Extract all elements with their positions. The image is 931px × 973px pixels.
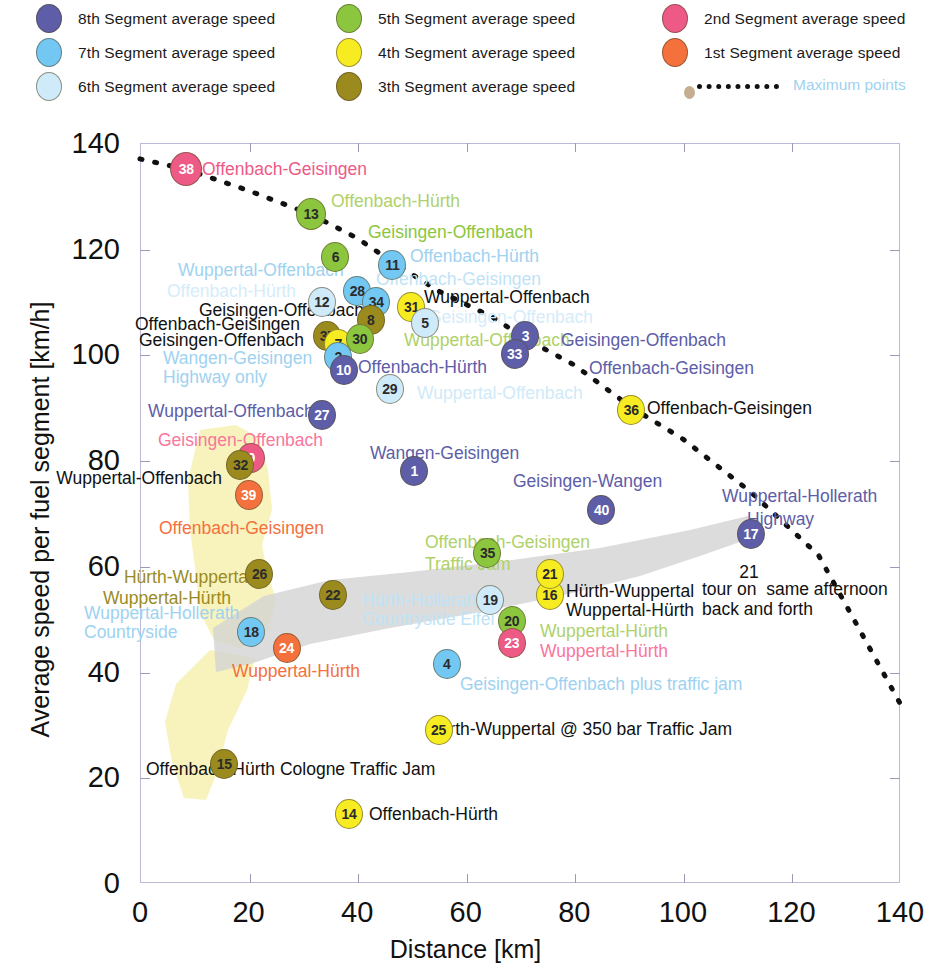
x-tick-label: 140 bbox=[876, 896, 924, 929]
data-point-32[interactable]: 32 bbox=[226, 450, 254, 480]
x-axis-title: Distance [km] bbox=[0, 935, 931, 964]
data-point-17[interactable]: 17 bbox=[737, 519, 765, 549]
y-tick-label: 40 bbox=[30, 655, 120, 688]
data-point-23[interactable]: 23 bbox=[498, 628, 526, 658]
x-tick-label: 0 bbox=[132, 896, 148, 929]
x-tick-label: 80 bbox=[558, 896, 590, 929]
data-point-29[interactable]: 29 bbox=[376, 374, 404, 404]
x-tick-label: 100 bbox=[659, 896, 707, 929]
data-point-39[interactable]: 39 bbox=[235, 480, 263, 510]
x-tick-label: 20 bbox=[232, 896, 264, 929]
data-point-22[interactable]: 22 bbox=[319, 580, 347, 610]
data-point-10[interactable]: 10 bbox=[330, 355, 358, 385]
data-point-1[interactable]: 1 bbox=[400, 456, 428, 486]
y-tick-label: 60 bbox=[30, 549, 120, 582]
data-point-18[interactable]: 18 bbox=[237, 617, 265, 647]
x-tick-label: 40 bbox=[341, 896, 373, 929]
data-point-4[interactable]: 4 bbox=[433, 649, 461, 679]
x-tick-label: 120 bbox=[767, 896, 815, 929]
y-tick-label: 20 bbox=[30, 761, 120, 794]
data-point-25[interactable]: 25 bbox=[425, 715, 453, 745]
data-point-15[interactable]: 15 bbox=[210, 749, 238, 779]
data-point-33[interactable]: 33 bbox=[501, 339, 529, 369]
y-tick-label: 0 bbox=[30, 867, 120, 900]
data-point-36[interactable]: 36 bbox=[617, 395, 645, 425]
data-point-35[interactable]: 35 bbox=[473, 538, 501, 568]
y-tick-label: 140 bbox=[30, 127, 120, 160]
data-point-5[interactable]: 5 bbox=[411, 308, 439, 338]
data-point-11[interactable]: 11 bbox=[378, 250, 406, 280]
data-point-21[interactable]: 21 bbox=[536, 559, 564, 589]
data-point-26[interactable]: 26 bbox=[245, 559, 273, 589]
data-point-13[interactable]: 13 bbox=[296, 198, 326, 230]
data-point-24[interactable]: 24 bbox=[273, 633, 301, 663]
y-tick-label: 80 bbox=[30, 444, 120, 477]
data-points-layer: 3813611122834318537730321033292736932391… bbox=[0, 0, 931, 973]
y-tick-label: 120 bbox=[30, 232, 120, 265]
y-tick-label: 100 bbox=[30, 338, 120, 371]
x-tick-label: 60 bbox=[450, 896, 482, 929]
data-point-14[interactable]: 14 bbox=[335, 799, 363, 829]
data-point-38[interactable]: 38 bbox=[170, 152, 202, 186]
data-point-6[interactable]: 6 bbox=[321, 242, 349, 272]
data-point-27[interactable]: 27 bbox=[308, 400, 336, 430]
data-point-12[interactable]: 12 bbox=[308, 287, 336, 317]
data-point-19[interactable]: 19 bbox=[476, 585, 504, 615]
data-point-40[interactable]: 40 bbox=[587, 495, 615, 525]
